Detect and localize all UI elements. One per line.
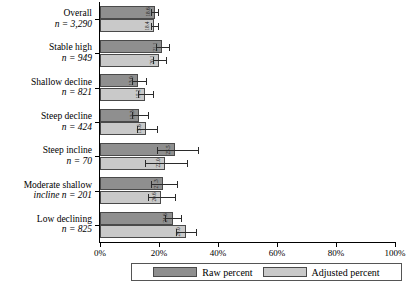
error-bar-cap-low (157, 147, 158, 154)
bar-adjusted-percent: 18.4 (100, 19, 154, 32)
x-axis-line (99, 242, 395, 243)
y-axis-tick (95, 122, 100, 123)
error-bar-line (156, 47, 169, 48)
category-sample-size: n = 3,290 (0, 19, 92, 30)
y-axis-tick (95, 156, 100, 157)
error-bar-cap-high (169, 44, 170, 51)
x-axis-tick (277, 242, 278, 247)
error-bar-cap-low (153, 57, 154, 64)
bar-value-label: 18.6 (146, 8, 151, 17)
error-bar-line (132, 115, 149, 116)
category-name: Overall (0, 8, 92, 19)
error-bar-cap-low (151, 9, 152, 16)
error-bar-cap-high (181, 215, 182, 222)
bar-raw-percent: 18.6 (100, 6, 155, 19)
category-name: Steep decline (0, 111, 92, 122)
error-bar-line (151, 12, 158, 13)
bar-chart: Overalln = 3,290Stable highn = 949Shallo… (0, 0, 412, 287)
category-label: Moderate shallowincline n = 201 (0, 180, 96, 201)
category-label: Steep declinen = 424 (0, 111, 96, 132)
error-bar-cap-low (156, 44, 157, 51)
x-axis-tick (100, 242, 101, 247)
legend-swatch-raw (153, 267, 197, 277)
category-name: Steep incline (0, 145, 92, 156)
y-axis-tick (95, 53, 100, 54)
category-label: Stable highn = 949 (0, 42, 96, 63)
bar-raw-percent: 21.1 (100, 40, 162, 53)
error-bar-cap-high (175, 194, 176, 201)
category-label: Steep inclinen = 70 (0, 145, 96, 166)
category-label: Shallow declinen = 821 (0, 77, 96, 98)
category-label: Low decliningn = 825 (0, 214, 96, 235)
chart-legend: Raw percent Adjusted percent (131, 263, 402, 281)
error-bar-cap-high (187, 160, 188, 167)
error-bar-cap-high (146, 78, 147, 85)
legend-item-raw: Raw percent (153, 267, 252, 278)
category-sample-size: n = 424 (0, 122, 92, 133)
category-sample-size: incline n = 201 (0, 190, 92, 201)
error-bar-cap-low (138, 91, 139, 98)
y-axis-tick (95, 225, 100, 226)
error-bar-line (132, 81, 146, 82)
error-bar-line (157, 150, 198, 151)
x-axis-tick (395, 242, 396, 247)
error-bar-cap-low (148, 194, 149, 201)
x-axis-tick (336, 242, 337, 247)
legend-label-raw: Raw percent (202, 267, 252, 278)
category-name: Moderate shallow (0, 180, 92, 191)
category-sample-size: n = 821 (0, 87, 92, 98)
error-bar-cap-low (132, 78, 133, 85)
x-axis-tick-label: 40% (210, 248, 227, 258)
error-bar-line (145, 163, 187, 164)
category-name: Low declining (0, 214, 92, 225)
error-bar-cap-high (157, 126, 158, 133)
error-bar-cap-low (151, 23, 152, 30)
plot-area: 18.618.421.120.113.015.213.315.625.522.0… (100, 2, 395, 242)
category-label: Overalln = 3,290 (0, 8, 96, 29)
x-axis-tick-label: 100% (385, 248, 406, 258)
error-bar-cap-high (177, 181, 178, 188)
y-axis-tick (95, 19, 100, 20)
legend-item-adjusted: Adjusted percent (263, 267, 380, 278)
error-bar-cap-high (158, 23, 159, 30)
error-bar-cap-high (196, 229, 197, 236)
error-bar-line (151, 26, 158, 27)
error-bar-cap-low (132, 112, 133, 119)
x-axis-tick (159, 242, 160, 247)
error-bar-cap-high (198, 147, 199, 154)
error-bar-line (176, 232, 195, 233)
error-bar-cap-low (176, 229, 177, 236)
y-axis-tick (95, 191, 100, 192)
category-sample-size: n = 70 (0, 156, 92, 167)
legend-swatch-adjusted (263, 267, 307, 277)
error-bar-cap-low (151, 181, 152, 188)
x-axis-tick-label: 60% (269, 248, 286, 258)
error-bar-cap-low (165, 215, 166, 222)
error-bar-line (153, 60, 166, 61)
bar-value-label: 18.4 (145, 21, 150, 30)
error-bar-line (137, 129, 157, 130)
error-bar-cap-high (158, 9, 159, 16)
error-bar-cap-high (148, 112, 149, 119)
error-bar-cap-high (153, 91, 154, 98)
category-sample-size: n = 825 (0, 224, 92, 235)
bar-raw-percent: 24.6 (100, 212, 173, 225)
x-axis-tick-label: 0% (94, 248, 106, 258)
error-bar-cap-low (145, 160, 146, 167)
bar-adjusted-percent: 20.1 (100, 54, 159, 67)
error-bar-cap-low (137, 126, 138, 133)
error-bar-line (148, 197, 174, 198)
bar-adjusted-percent: 29.0 (100, 225, 186, 238)
legend-label-adjusted: Adjusted percent (312, 267, 380, 278)
error-bar-line (138, 94, 153, 95)
x-axis-tick-label: 80% (328, 248, 345, 258)
y-axis-tick (95, 88, 100, 89)
x-axis-tick (218, 242, 219, 247)
error-bar-line (151, 184, 177, 185)
category-name: Stable high (0, 42, 92, 53)
category-sample-size: n = 949 (0, 53, 92, 64)
error-bar-line (165, 218, 182, 219)
category-name: Shallow decline (0, 77, 92, 88)
error-bar-cap-high (166, 57, 167, 64)
x-axis-tick-label: 20% (151, 248, 168, 258)
